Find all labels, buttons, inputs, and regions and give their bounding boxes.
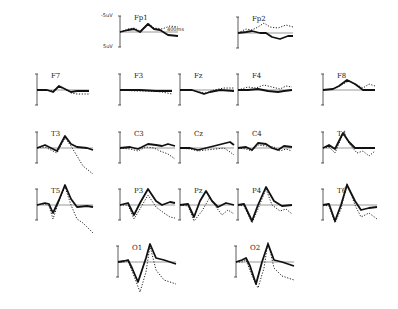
waveform-solid xyxy=(180,90,234,94)
electrode-label: F7 xyxy=(51,72,60,80)
waveform-dotted xyxy=(236,242,294,288)
waveform-solid xyxy=(37,86,89,92)
scale-bottom-label: 5uV xyxy=(103,43,113,49)
waveform-dotted xyxy=(37,138,93,174)
erp-figure: Fp1Fp2F7F3FzF4F8T3C3CzC4T4T5P3PzP4T6O1O2… xyxy=(0,0,398,309)
panel-t5: T5 xyxy=(35,185,93,233)
electrode-label: T5 xyxy=(51,187,60,195)
electrode-label: P4 xyxy=(252,187,262,195)
waveform-dotted xyxy=(180,148,234,155)
electrode-label: F8 xyxy=(337,72,346,80)
waveform-solid xyxy=(238,89,292,92)
electrode-label: C3 xyxy=(134,130,144,138)
electrode-label: O2 xyxy=(250,244,260,252)
scale-top-label: -5uV xyxy=(101,12,113,18)
panel-f8: F8 xyxy=(321,72,375,105)
electrode-label: P3 xyxy=(134,187,143,195)
panel-p3: P3 xyxy=(118,187,175,220)
waveform-solid xyxy=(238,187,292,221)
panel-o2: O2 xyxy=(234,242,294,288)
waveform-dotted xyxy=(120,195,175,219)
waveform-solid xyxy=(180,142,234,150)
waveform-solid xyxy=(323,133,375,149)
electrode-label: Fp2 xyxy=(252,15,266,23)
waveform-dotted xyxy=(37,187,93,233)
electrode-label: T6 xyxy=(337,187,347,195)
panel-t6: T6 xyxy=(321,183,377,223)
waveform-dotted xyxy=(323,134,375,156)
waveform-solid xyxy=(120,189,175,215)
panel-fz: Fz xyxy=(178,72,234,105)
waveform-solid xyxy=(180,191,234,217)
waveform-solid xyxy=(37,136,93,151)
panel-f7: F7 xyxy=(35,72,89,105)
electrode-label: C4 xyxy=(252,130,262,138)
waveform-solid xyxy=(236,244,294,284)
electrode-label: F4 xyxy=(252,72,262,80)
electrode-label: F3 xyxy=(134,72,143,80)
waveform-solid xyxy=(323,185,377,221)
panel-c3: C3 xyxy=(118,130,175,163)
electrode-label: T3 xyxy=(51,130,60,138)
scale-time-label: 400ms xyxy=(167,26,184,32)
electrode-label: Cz xyxy=(194,130,203,138)
waveform-solid xyxy=(120,90,172,91)
panel-t4: T4 xyxy=(321,130,375,163)
waveform-solid xyxy=(238,31,293,39)
waveform-dotted xyxy=(120,147,175,159)
electrode-label: Pz xyxy=(194,187,203,195)
panel-o1: O1 xyxy=(116,244,176,292)
electrode-label: Fz xyxy=(194,72,203,80)
waveform-solid xyxy=(238,143,292,150)
panel-fp2: Fp2 xyxy=(236,15,293,48)
electrode-label: Fp1 xyxy=(134,14,148,22)
panel-p4: P4 xyxy=(236,187,292,223)
electrode-label: T4 xyxy=(337,130,347,138)
panel-cz: Cz xyxy=(178,130,234,163)
waveform-panels: Fp1Fp2F7F3FzF4F8T3C3CzC4T4T5P3PzP4T6O1O2 xyxy=(35,14,377,292)
waveform-dotted xyxy=(180,197,234,221)
panel-c4: C4 xyxy=(236,130,292,163)
panel-t3: T3 xyxy=(35,130,93,174)
panel-f3: F3 xyxy=(118,72,172,105)
panel-pz: Pz xyxy=(178,187,234,221)
waveform-solid xyxy=(37,185,93,213)
electrode-label: O1 xyxy=(132,244,142,252)
panel-f4: F4 xyxy=(236,72,292,105)
